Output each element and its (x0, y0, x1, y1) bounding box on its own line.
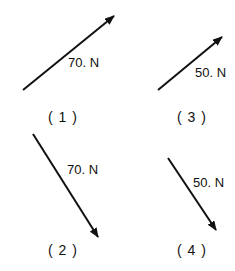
vector-2-caption: ( 2 ) (48, 242, 78, 258)
vector-2-magnitude-label: 70. N (67, 162, 98, 177)
vector-4-magnitude-label: 50. N (193, 175, 224, 190)
vector-1-arrow (23, 16, 114, 90)
vector-4-arrow (168, 158, 216, 230)
vector-3-magnitude-label: 50. N (195, 65, 226, 80)
vector-3-arrow (158, 37, 222, 90)
vector-4: 50. N ( 4 ) (168, 158, 224, 258)
vector-3-caption: ( 3 ) (177, 109, 207, 125)
vector-4-caption: ( 4 ) (177, 242, 207, 258)
vector-2-arrow (33, 134, 98, 237)
vector-3: 50. N ( 3 ) (158, 37, 226, 125)
vector-1-magnitude-label: 70. N (68, 55, 99, 70)
vector-2: 70. N ( 2 ) (33, 134, 98, 258)
vector-1-caption: ( 1 ) (48, 109, 78, 125)
force-vector-diagram: 70. N ( 1 ) 50. N ( 3 ) 70. N ( 2 ) 50. … (0, 0, 235, 271)
vector-1: 70. N ( 1 ) (23, 16, 114, 125)
